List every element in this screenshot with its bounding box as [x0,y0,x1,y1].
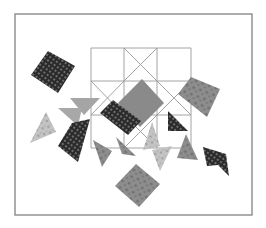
diagram-canvas [0,0,266,228]
fabric-pieces [30,51,229,207]
mottled-triangle-bottom-right [177,134,198,160]
mottled-triangle-below-grid-2 [116,137,136,156]
dark-dotted-square-topleft [31,51,75,93]
mottled-triangle-below-grid-1 [93,140,112,167]
mottled-square-bottom [115,164,160,207]
dark-dotted-bowtie-right [203,147,229,176]
mottled-square-right [178,77,220,117]
dark-dotted-trapezoid-left [58,119,90,162]
floral-triangle-left [30,112,56,143]
quilt-pieces-diagram [0,0,266,228]
light-mottled-triangle-bottom [152,146,172,171]
dark-dotted-triangle-right-in-grid [168,111,188,131]
